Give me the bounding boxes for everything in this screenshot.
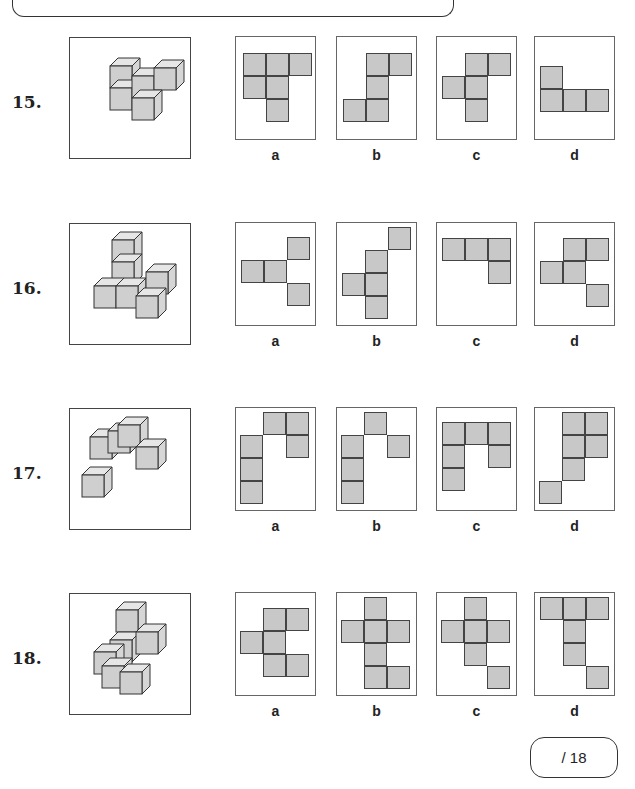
net-square [287,283,310,306]
option-panel-b[interactable] [336,222,417,326]
net-square [366,53,389,76]
net-square [585,435,608,458]
option-label-d: d [534,147,615,163]
net-square [562,412,585,435]
option-panel-a[interactable] [235,222,316,326]
net-square [365,296,388,319]
net-square [563,89,586,112]
net-square [465,422,488,445]
net-square [286,412,309,435]
net-square [465,53,488,76]
cube-figure-icon [70,409,190,529]
cube-figure-icon [70,224,190,344]
option-panel-a[interactable] [235,36,316,140]
cube-figure [69,593,191,715]
net-square [586,238,609,261]
net-square [364,666,387,689]
net-square [365,273,388,296]
option-label-b: b [336,703,417,719]
net-square [364,412,387,435]
net-square [586,89,609,112]
option-panel-b[interactable] [336,36,417,140]
net-square [263,654,286,677]
net-square [387,620,410,643]
net-square [364,620,387,643]
net-square [342,273,365,296]
net-square [240,435,263,458]
option-label-a: a [235,147,316,163]
net-square [562,435,585,458]
net-square [341,435,364,458]
net-square [241,260,264,283]
net-square [540,597,563,620]
option-label-c: c [436,703,517,719]
instruction-banner [12,0,454,17]
net-square [562,458,585,481]
net-square [341,620,364,643]
net-square [263,412,286,435]
net-square [289,53,312,76]
net-square [287,237,310,260]
net-square [286,654,309,677]
net-square [488,238,511,261]
question-number: 15. [12,92,62,112]
net-square [341,458,364,481]
cube-figure [69,37,191,159]
option-label-a: a [235,703,316,719]
option-label-b: b [336,147,417,163]
net-square [343,99,366,122]
net-square [364,643,387,666]
net-square [464,620,487,643]
net-square [266,76,289,99]
net-square [464,597,487,620]
option-panel-b[interactable] [336,592,417,696]
cube-figure [69,408,191,530]
net-square [487,620,510,643]
option-panel-c[interactable] [436,36,517,140]
option-panel-d[interactable] [534,222,615,326]
option-label-d: d [534,703,615,719]
net-square [263,608,286,631]
net-square [266,53,289,76]
option-label-b: b [336,333,417,349]
net-square [387,435,410,458]
option-panel-d[interactable] [534,36,615,140]
net-square [586,284,609,307]
net-square [488,53,511,76]
net-square [286,608,309,631]
net-square [465,238,488,261]
option-panel-c[interactable] [436,407,517,511]
net-square [488,445,511,468]
net-square [540,89,563,112]
net-square [366,76,389,99]
score-text: / 18 [531,749,617,766]
question-number: 16. [12,278,62,298]
option-label-c: c [436,147,517,163]
net-square [539,481,562,504]
net-square [243,53,266,76]
option-panel-d[interactable] [534,407,615,511]
option-label-a: a [235,333,316,349]
option-panel-d[interactable] [534,592,615,696]
net-square [388,227,411,250]
net-square [341,481,364,504]
net-square [487,666,510,689]
option-panel-c[interactable] [436,222,517,326]
option-panel-b[interactable] [336,407,417,511]
option-label-a: a [235,518,316,534]
net-square [441,620,464,643]
net-square [586,597,609,620]
net-square [563,643,586,666]
net-square [442,76,465,99]
net-square [464,643,487,666]
option-panel-a[interactable] [235,407,316,511]
net-square [263,631,286,654]
cube-figure-icon [70,38,190,158]
net-square [442,468,465,491]
option-panel-c[interactable] [436,592,517,696]
net-square [240,631,263,654]
cube-figure-icon [70,594,190,714]
net-square [586,666,609,689]
option-panel-a[interactable] [235,592,316,696]
net-square [563,238,586,261]
